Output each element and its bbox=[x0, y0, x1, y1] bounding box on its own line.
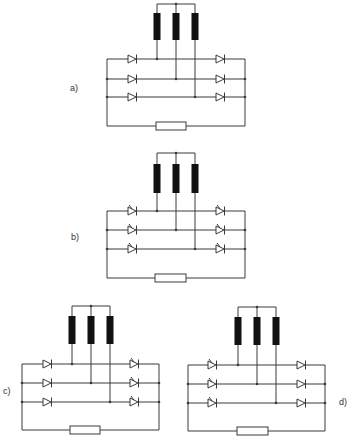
device-triangle bbox=[128, 75, 136, 83]
device-triangle bbox=[128, 93, 136, 101]
thyristor-icon bbox=[216, 243, 225, 254]
junction-dot bbox=[187, 402, 190, 405]
thyristor-icon bbox=[130, 396, 139, 407]
junction-dot bbox=[106, 78, 109, 81]
thyristor-icon bbox=[208, 397, 217, 408]
diode-icon bbox=[43, 379, 52, 388]
device-triangle bbox=[216, 75, 224, 83]
junction-dot bbox=[256, 383, 259, 386]
winding-coil-icon bbox=[88, 316, 95, 344]
diode-icon bbox=[297, 361, 306, 370]
thyristor-icon bbox=[128, 205, 137, 216]
circuit-panel-b bbox=[106, 152, 247, 282]
diode-icon bbox=[128, 75, 137, 84]
panel-label-b: b) bbox=[71, 232, 79, 242]
thyristor-icon bbox=[208, 359, 217, 370]
diode-icon bbox=[128, 93, 137, 102]
panel-label-d: d) bbox=[339, 397, 347, 407]
circuit-panel-a bbox=[106, 3, 247, 130]
device-triangle bbox=[297, 380, 305, 388]
diode-icon bbox=[216, 93, 225, 102]
junction-dot bbox=[106, 96, 109, 99]
junction-dot bbox=[106, 229, 109, 232]
junction-dot bbox=[324, 402, 327, 405]
junction-dot bbox=[175, 229, 178, 232]
thyristor-icon bbox=[208, 378, 217, 389]
diode-icon bbox=[43, 398, 52, 407]
device-triangle bbox=[43, 379, 51, 387]
junction-dot bbox=[156, 58, 159, 61]
panel-label-a: a) bbox=[70, 83, 78, 93]
device-triangle bbox=[43, 360, 51, 368]
panel-label-c: c) bbox=[3, 386, 11, 396]
circuit-panel-d bbox=[187, 306, 327, 435]
junction-dot bbox=[187, 383, 190, 386]
junction-dot bbox=[237, 364, 240, 367]
winding-coil-icon bbox=[254, 317, 261, 345]
load-resistor bbox=[155, 274, 186, 282]
junction-dot bbox=[175, 78, 178, 81]
device-triangle bbox=[216, 55, 224, 63]
junction-dot bbox=[21, 382, 24, 385]
winding-coil-icon bbox=[69, 316, 76, 344]
junction-dot bbox=[324, 383, 327, 386]
diode-icon bbox=[216, 55, 225, 64]
device-triangle bbox=[216, 93, 224, 101]
device-triangle bbox=[297, 399, 305, 407]
junction-dot bbox=[244, 248, 247, 251]
winding-coil-icon bbox=[154, 164, 161, 193]
load-resistor bbox=[237, 427, 268, 435]
winding-coil-icon bbox=[173, 164, 180, 193]
diode-icon bbox=[297, 380, 306, 389]
diode-icon bbox=[43, 360, 52, 369]
device-triangle bbox=[297, 361, 305, 369]
load-resistor bbox=[70, 426, 100, 434]
junction-dot bbox=[194, 96, 197, 99]
thyristor-icon bbox=[216, 205, 225, 216]
junction-dot bbox=[244, 229, 247, 232]
thyristor-icon bbox=[128, 243, 137, 254]
thyristor-icon bbox=[130, 377, 139, 388]
diode-icon bbox=[128, 55, 137, 64]
circuit-panel-c bbox=[21, 305, 161, 434]
junction-dot bbox=[90, 382, 93, 385]
junction-dot bbox=[244, 78, 247, 81]
junction-dot bbox=[156, 210, 159, 213]
winding-coil-icon bbox=[173, 13, 180, 40]
load-resistor bbox=[156, 122, 186, 130]
junction-dot bbox=[275, 402, 278, 405]
junction-dot bbox=[21, 401, 24, 404]
circuit-diagram-canvas bbox=[0, 0, 351, 443]
winding-coil-icon bbox=[154, 13, 161, 40]
thyristor-icon bbox=[216, 224, 225, 235]
junction-dot bbox=[194, 248, 197, 251]
winding-coil-icon bbox=[192, 13, 199, 40]
junction-dot bbox=[109, 401, 112, 404]
diode-icon bbox=[297, 399, 306, 408]
thyristor-icon bbox=[130, 358, 139, 369]
junction-dot bbox=[244, 96, 247, 99]
junction-dot bbox=[158, 401, 161, 404]
junction-dot bbox=[71, 363, 74, 366]
winding-coil-icon bbox=[107, 316, 114, 344]
device-triangle bbox=[128, 55, 136, 63]
winding-coil-icon bbox=[273, 317, 280, 345]
junction-dot bbox=[158, 382, 161, 385]
device-triangle bbox=[43, 398, 51, 406]
winding-coil-icon bbox=[192, 164, 199, 193]
thyristor-icon bbox=[128, 224, 137, 235]
diode-icon bbox=[216, 75, 225, 84]
winding-coil-icon bbox=[235, 317, 242, 345]
junction-dot bbox=[106, 248, 109, 251]
